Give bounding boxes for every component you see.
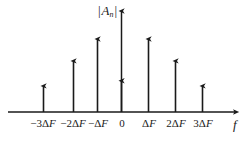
tick-delta: Δ bbox=[199, 117, 206, 129]
tick-unit: F bbox=[101, 117, 108, 129]
y-axis-title: |An| bbox=[97, 4, 118, 17]
tick-delta: Δ bbox=[72, 117, 79, 129]
tick-unit: F bbox=[206, 117, 213, 129]
tick-unit: F bbox=[149, 117, 156, 129]
x-axis-title: f bbox=[233, 118, 237, 131]
tick-label-plus-2df: 2ΔF bbox=[166, 118, 185, 129]
tick-label-minus-2df: −2ΔF bbox=[60, 118, 86, 129]
y-axis-title-subscript: n bbox=[110, 10, 114, 19]
tick-label-minus-3df: −3ΔF bbox=[30, 118, 56, 129]
tick-delta: Δ bbox=[42, 117, 49, 129]
line-spectrum-figure: |An| f −3ΔF −2ΔF −ΔF 0 ΔF 2ΔF 3ΔF bbox=[0, 0, 249, 146]
tick-unit: F bbox=[79, 117, 86, 129]
tick-label-plus-1df: ΔF bbox=[142, 118, 156, 129]
tick-unit: F bbox=[49, 117, 56, 129]
tick-label-origin: 0 bbox=[119, 118, 125, 129]
tick-delta: Δ bbox=[172, 117, 179, 129]
tick-unit: F bbox=[179, 117, 186, 129]
tick-label-plus-3df: 3ΔF bbox=[193, 118, 212, 129]
tick-coefficient: 0 bbox=[119, 117, 125, 129]
y-axis-title-symbol: A bbox=[102, 3, 110, 18]
tick-label-minus-1df: −ΔF bbox=[88, 118, 108, 129]
y-axis-title-close-bar: | bbox=[114, 3, 119, 18]
